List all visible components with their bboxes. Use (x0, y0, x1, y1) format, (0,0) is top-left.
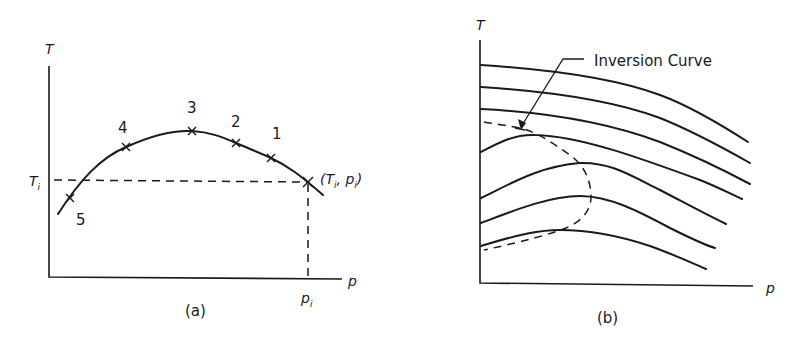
point-label-1: 1 (272, 125, 282, 143)
panel-b-y-axis-label: T (476, 17, 486, 33)
marker-1 (267, 154, 275, 162)
isenthalp-curve-6 (481, 196, 715, 248)
isenthalp-curve-7 (481, 230, 706, 269)
panel-a: T p Ti pi 1 2 3 4 5 (Ti, (29, 41, 362, 320)
ti-dashed-line (54, 180, 307, 182)
panel-b-caption: (b) (597, 309, 618, 327)
pi-label: pi (300, 290, 313, 309)
initial-state-label: (Ti, pi) (320, 171, 362, 190)
panel-a-axes (49, 66, 342, 279)
panel-b: T p Inversion Curve (b) (476, 17, 775, 327)
point-label-2: 2 (231, 113, 241, 131)
arrow-tick (515, 128, 525, 130)
panel-a-x-axis-label: p (347, 273, 357, 289)
panel-b-axes (480, 40, 753, 286)
panel-a-caption: (a) (185, 302, 206, 320)
point-label-4: 4 (118, 119, 128, 137)
marker-4 (122, 143, 130, 151)
isenthalp-curve-1 (481, 65, 748, 142)
diagram-canvas: T p Ti pi 1 2 3 4 5 (Ti, (0, 0, 810, 337)
point-label-3: 3 (187, 99, 197, 117)
isenthalp-family (481, 65, 750, 269)
inversion-curve-label: Inversion Curve (594, 52, 712, 70)
isenthalp-curve (58, 131, 323, 214)
isenthalp-curve-5 (481, 163, 726, 224)
marker-2 (232, 139, 240, 147)
ti-label: Ti (29, 173, 41, 192)
panel-b-x-axis-label: p (765, 280, 775, 296)
point-label-5: 5 (76, 211, 86, 229)
panel-a-y-axis-label: T (45, 41, 55, 57)
isenthalp-curve-3 (481, 109, 750, 184)
